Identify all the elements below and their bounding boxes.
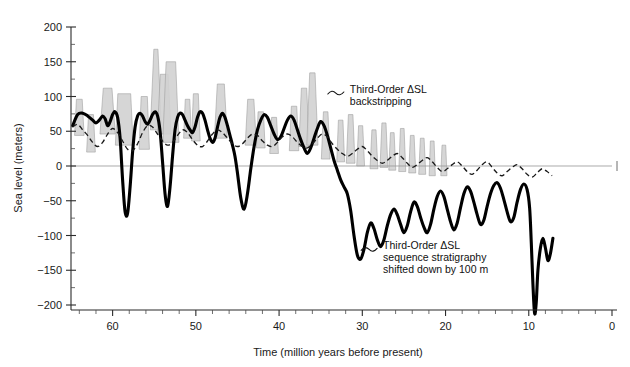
- uncertainty-wedge: [389, 133, 396, 171]
- uncertainty-wedge: [419, 138, 426, 174]
- y-tick-label: −50: [43, 195, 62, 207]
- annotation-line: sequence stratigraphy: [383, 251, 487, 263]
- y-tick-label: 100: [44, 91, 62, 103]
- sequence-stratigraphy-label: Third-Order ΔSLsequence stratigraphyshif…: [383, 239, 488, 275]
- y-tick-label: −200: [37, 299, 62, 311]
- y-tick-label: −100: [37, 230, 62, 242]
- y-tick-label: 200: [44, 21, 62, 33]
- uncertainty-wedge: [370, 130, 378, 169]
- y-tick-label: 50: [50, 125, 62, 137]
- uncertainty-wedge: [429, 141, 435, 176]
- x-axis-title: Time (million years before present): [253, 346, 423, 358]
- backstripping-label: Third-Order ΔSLbackstripping: [350, 83, 427, 107]
- uncertainty-wedge: [409, 135, 416, 173]
- annotation-line: shifted down by 100 m: [383, 263, 488, 275]
- wedges-layer: [75, 49, 447, 175]
- x-tick-label: 50: [190, 320, 202, 332]
- x-tick-label: 60: [106, 320, 118, 332]
- x-tick-label: 20: [439, 320, 451, 332]
- uncertainty-wedge: [357, 126, 365, 166]
- uncertainty-wedge: [337, 120, 345, 162]
- annotation-line: Third-Order ΔSL: [383, 239, 460, 251]
- annotation-leader-line: [328, 91, 344, 95]
- uncertainty-wedge: [441, 145, 447, 176]
- y-tick-label: 0: [56, 160, 62, 172]
- annotation-line: backstripping: [350, 95, 412, 107]
- x-tick-label: 30: [356, 320, 368, 332]
- uncertainty-wedge: [380, 123, 388, 167]
- x-tick-label: 10: [523, 320, 535, 332]
- annotation-line: Third-Order ΔSL: [350, 83, 427, 95]
- uncertainty-wedge: [346, 115, 355, 164]
- chart-svg: 200150100500−50−100−150−2006050403020100…: [0, 0, 630, 367]
- axes-layer: [66, 27, 617, 316]
- x-tick-label: 0: [609, 320, 615, 332]
- y-axis-title: Sea level (meters): [12, 123, 24, 212]
- y-tick-label: −150: [37, 264, 62, 276]
- annotations-layer: Third-Order ΔSLbackstrippingThird-Order …: [328, 83, 489, 275]
- x-tick-label: 40: [273, 320, 285, 332]
- sea-level-chart-figure: 200150100500−50−100−150−2006050403020100…: [0, 0, 630, 367]
- uncertainty-wedge: [399, 128, 406, 171]
- y-tick-label: 150: [44, 56, 62, 68]
